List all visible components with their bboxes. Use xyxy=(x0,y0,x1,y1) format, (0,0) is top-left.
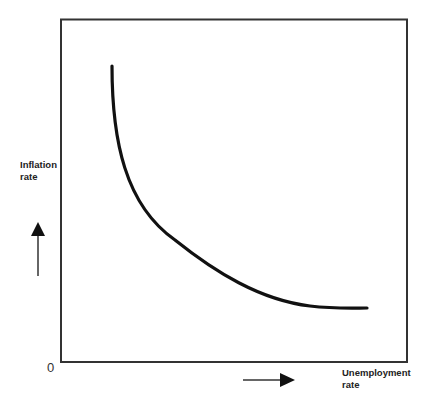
right-arrow-icon xyxy=(243,373,295,387)
phillips-curve-chart xyxy=(0,0,429,404)
up-arrow-icon xyxy=(31,222,45,276)
y-axis-label: Inflation rate xyxy=(20,159,57,183)
origin-label: 0 xyxy=(47,360,54,375)
phillips-curve-line xyxy=(112,66,367,308)
x-axis-label: Unemployment rate xyxy=(342,367,411,391)
